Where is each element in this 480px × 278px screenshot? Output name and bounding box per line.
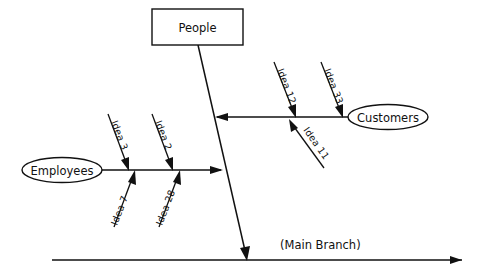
node-employees[interactable]: Employees bbox=[22, 158, 102, 183]
main-branch-label: (Main Branch) bbox=[280, 238, 361, 252]
sub-bone-idea-33: Idea 33 bbox=[321, 62, 346, 118]
idea-28-label: Idea 28 bbox=[154, 188, 178, 226]
customers-branch-group: Idea 12 Idea 33 Idea 11 bbox=[215, 62, 348, 168]
sub-bone-idea-28: Idea 28 bbox=[154, 170, 181, 227]
customers-branch-arrowhead bbox=[215, 113, 228, 121]
node-people[interactable]: People bbox=[152, 9, 243, 45]
fishbone-canvas: (Main Branch) Idea 12 Idea 33 bbox=[0, 0, 480, 278]
spine-group bbox=[198, 45, 250, 261]
sub-bone-idea-11: Idea 11 bbox=[289, 119, 332, 168]
main-branch-group: (Main Branch) bbox=[52, 238, 462, 264]
sub-bone-idea-2: Idea 2 bbox=[152, 114, 174, 171]
node-customers[interactable]: Customers bbox=[348, 105, 428, 130]
employees-label: Employees bbox=[31, 164, 94, 178]
customers-label: Customers bbox=[357, 111, 419, 125]
fishbone-diagram: (Main Branch) Idea 12 Idea 33 bbox=[0, 0, 480, 278]
idea-12-arrowhead bbox=[288, 104, 296, 118]
idea-3-arrowhead bbox=[121, 157, 129, 171]
spine-arrowhead bbox=[240, 246, 250, 261]
idea-7-label: Idea 7 bbox=[109, 194, 130, 227]
sub-bone-idea-3: Idea 3 bbox=[108, 114, 130, 171]
employees-branch-group: Idea 3 Idea 2 Idea 7 Idea 28 bbox=[102, 114, 223, 227]
idea-7-arrowhead bbox=[128, 170, 136, 185]
idea-3-label: Idea 3 bbox=[109, 119, 130, 152]
sub-bone-idea-7: Idea 7 bbox=[109, 170, 136, 227]
sub-bone-idea-12: Idea 12 bbox=[274, 62, 299, 118]
idea-2-arrowhead bbox=[165, 157, 173, 171]
idea-33-arrowhead bbox=[335, 104, 343, 118]
spine-line bbox=[198, 45, 246, 255]
employees-branch-arrowhead bbox=[210, 166, 223, 174]
idea-28-arrowhead bbox=[173, 170, 181, 185]
idea-2-label: Idea 2 bbox=[153, 119, 174, 152]
idea-12-label: Idea 12 bbox=[275, 67, 299, 105]
idea-33-label: Idea 33 bbox=[322, 67, 346, 105]
main-branch-arrowhead bbox=[450, 256, 462, 264]
people-label: People bbox=[178, 21, 216, 35]
